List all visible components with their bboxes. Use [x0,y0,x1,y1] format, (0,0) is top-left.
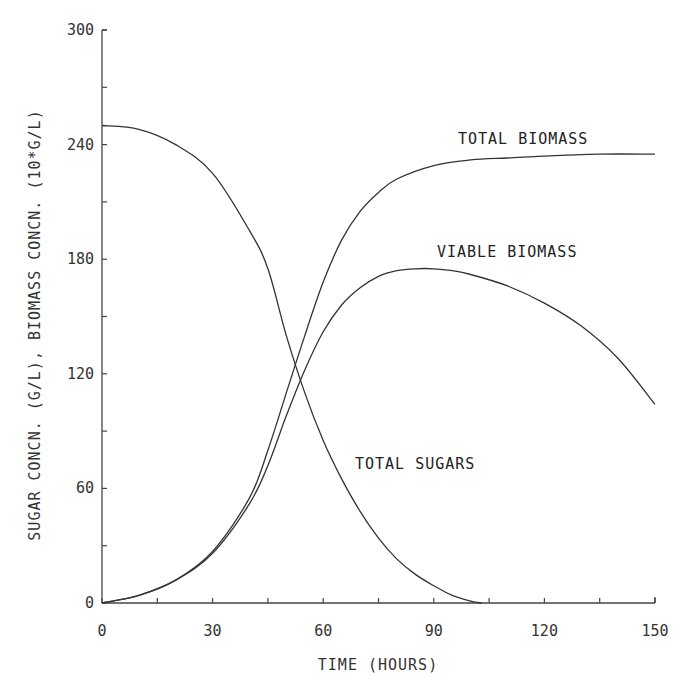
viable-biomass-curve [102,269,655,604]
x-tick-label: 60 [314,622,332,640]
y-tick-label: 180 [67,250,94,268]
y-tick-label: 0 [85,594,94,612]
chart: 0601201802403000306090120150 TOTAL SUGAR… [0,0,700,693]
y-tick-label: 60 [76,479,94,497]
y-tick-label: 120 [67,365,94,383]
axes: 0601201802403000306090120150 [67,21,669,640]
x-tick-label: 30 [204,622,222,640]
series-labels: TOTAL SUGARSTOTAL BIOMASSVIABLE BIOMASS [355,130,588,473]
curves [102,126,655,604]
total-biomass-label: TOTAL BIOMASS [458,130,588,148]
x-tick-label: 120 [531,622,558,640]
x-tick-label: 150 [641,622,668,640]
total-sugars-curve [102,126,482,604]
total-sugars-label: TOTAL SUGARS [355,455,475,473]
x-axis-title: TIME (HOURS) [318,656,438,674]
total-biomass-curve [102,154,655,603]
x-tick-label: 90 [425,622,443,640]
y-tick-label: 240 [67,136,94,154]
viable-biomass-label: VIABLE BIOMASS [437,243,577,261]
x-tick-label: 0 [97,622,106,640]
y-axis-title: SUGAR CONCN. (G/L), BIOMASS CONCN. (10*G… [26,109,44,540]
y-tick-label: 300 [67,21,94,39]
